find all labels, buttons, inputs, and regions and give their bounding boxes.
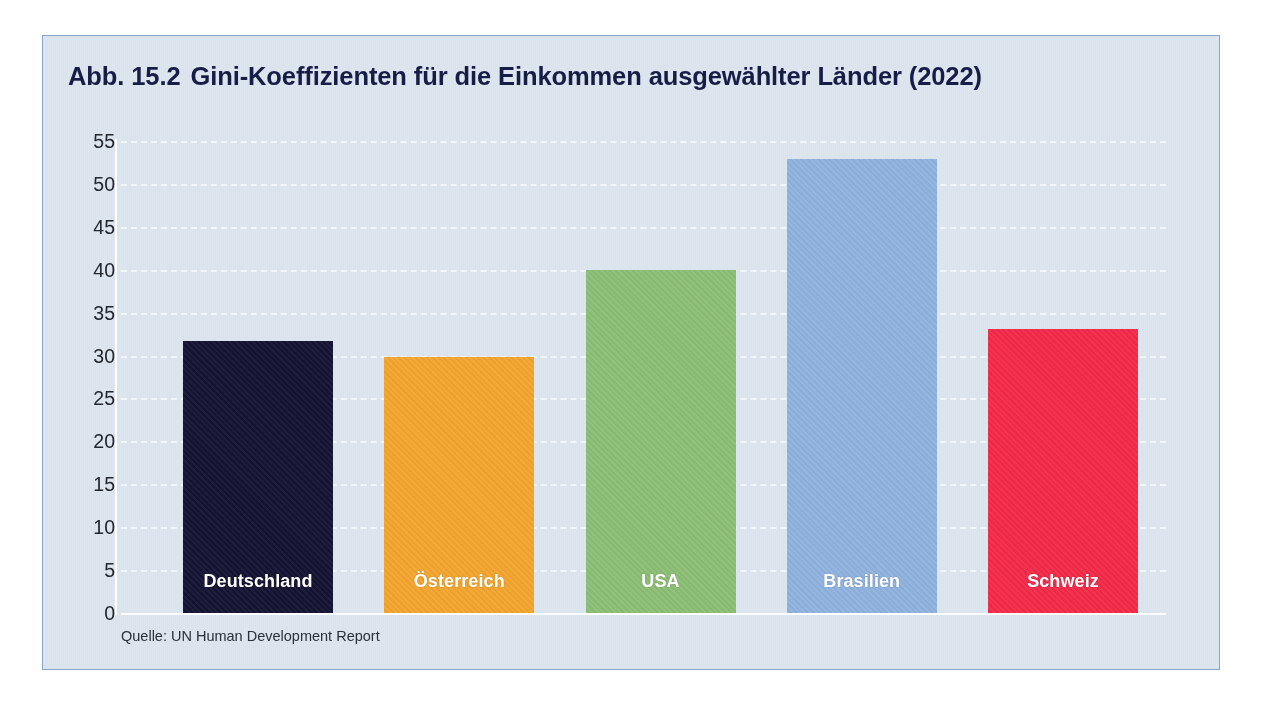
- source-note: Quelle: UN Human Development Report: [121, 628, 380, 644]
- y-tick-label-25: 25: [65, 387, 115, 410]
- y-tick-label-50: 50: [65, 172, 115, 195]
- bar-texture: [586, 270, 736, 613]
- bar-label-schweiz: Schweiz: [988, 571, 1138, 592]
- figure-title-text: Gini-Koeffizienten für die Einkommen aus…: [190, 62, 981, 90]
- bar-label-deutschland: Deutschland: [183, 571, 333, 592]
- bar-schweiz[interactable]: Schweiz: [988, 329, 1138, 613]
- y-tick-label-30: 30: [65, 344, 115, 367]
- gridline-0: [121, 613, 1166, 615]
- bar-label--sterreich: Österreich: [384, 571, 534, 592]
- y-tick-label-10: 10: [65, 516, 115, 539]
- y-tick-label-45: 45: [65, 215, 115, 238]
- bar--sterreich[interactable]: Österreich: [384, 357, 534, 613]
- chart-title: Abb. 15.2Gini-Koeffizienten für die Eink…: [68, 62, 982, 91]
- bar-deutschland[interactable]: Deutschland: [183, 341, 333, 613]
- figure-panel: Abb. 15.2Gini-Koeffizienten für die Eink…: [42, 35, 1220, 670]
- y-tick-label-15: 15: [65, 473, 115, 496]
- bar-texture: [787, 159, 937, 613]
- y-tick-label-20: 20: [65, 430, 115, 453]
- gridline-55: [121, 141, 1166, 143]
- bar-brasilien[interactable]: Brasilien: [787, 159, 937, 613]
- bar-label-usa: USA: [586, 571, 736, 592]
- y-axis-spine: [115, 139, 117, 615]
- figure-label: Abb. 15.2: [68, 62, 180, 90]
- gridline-50: [121, 184, 1166, 186]
- gridline-45: [121, 227, 1166, 229]
- bar-label-brasilien: Brasilien: [787, 571, 937, 592]
- bar-usa[interactable]: USA: [586, 270, 736, 613]
- y-tick-label-55: 55: [65, 130, 115, 153]
- y-tick-label-35: 35: [65, 301, 115, 324]
- y-tick-label-5: 5: [65, 559, 115, 582]
- y-tick-label-40: 40: [65, 258, 115, 281]
- plot-area: 0510152025303540455055 DeutschlandÖsterr…: [121, 141, 1166, 613]
- y-tick-label-0: 0: [65, 602, 115, 625]
